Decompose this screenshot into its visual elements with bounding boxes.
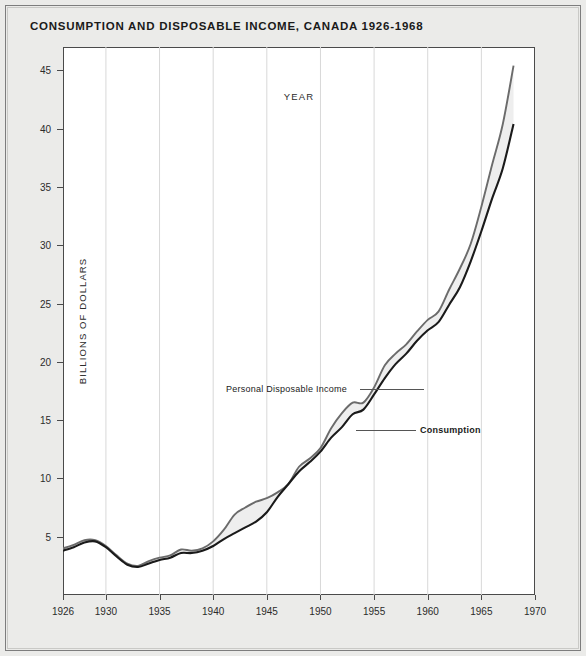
y-tick-label: 10 (25, 473, 51, 484)
x-tick-mark (267, 595, 268, 600)
x-tick-mark (428, 595, 429, 600)
y-tick-label: 20 (25, 356, 51, 367)
y-tick-label: 15 (25, 415, 51, 426)
y-tick-label: 35 (25, 181, 51, 192)
y-tick-mark (57, 537, 63, 538)
x-tick-label: 1955 (352, 606, 396, 617)
y-tick-mark (57, 304, 63, 305)
x-tick-label: 1945 (245, 606, 289, 617)
y-tick-label: 25 (25, 298, 51, 309)
y-tick-mark (57, 70, 63, 71)
annotation-personal-disposable-income: Personal Disposable Income (226, 384, 347, 394)
annotation-leader-income (360, 389, 424, 390)
x-tick-label: 1965 (459, 606, 503, 617)
series-line-consumption (63, 124, 514, 567)
series-line-personal-disposable-income (63, 66, 514, 566)
figure-root: CONSUMPTION AND DISPOSABLE INCOME, CANAD… (0, 0, 586, 656)
y-axis-label: BILLIONS OF DOLLARS (77, 258, 88, 385)
x-tick-mark (106, 595, 107, 600)
chart-title: CONSUMPTION AND DISPOSABLE INCOME, CANAD… (30, 20, 423, 32)
x-tick-label: 1940 (191, 606, 235, 617)
income-consumption-gap-band (63, 66, 514, 567)
x-tick-label: 1960 (406, 606, 450, 617)
annotation-leader-consumption (356, 430, 416, 431)
x-tick-label: 1970 (513, 606, 557, 617)
y-tick-mark (57, 478, 63, 479)
x-tick-label: 1935 (138, 606, 182, 617)
x-tick-mark (63, 595, 64, 600)
annotation-consumption: Consumption (420, 425, 481, 435)
y-tick-mark (57, 420, 63, 421)
x-axis-label: YEAR (284, 91, 314, 102)
y-tick-label: 45 (25, 65, 51, 76)
y-tick-mark (57, 362, 63, 363)
y-tick-label: 40 (25, 123, 51, 134)
x-tick-mark (535, 595, 536, 600)
y-tick-label: 30 (25, 240, 51, 251)
data-series-layer (63, 47, 535, 595)
y-tick-mark (57, 129, 63, 130)
x-tick-label: 1950 (298, 606, 342, 617)
x-tick-mark (213, 595, 214, 600)
y-tick-mark (57, 187, 63, 188)
y-tick-mark (57, 245, 63, 246)
x-tick-mark (374, 595, 375, 600)
x-tick-mark (160, 595, 161, 600)
x-tick-mark (320, 595, 321, 600)
x-tick-label: 1930 (84, 606, 128, 617)
plot-wrapper: BILLIONS OF DOLLARS 51015202530354045 19… (63, 47, 535, 595)
x-tick-mark (481, 595, 482, 600)
y-tick-label: 5 (25, 531, 51, 542)
x-tick-label: 1926 (41, 606, 85, 617)
